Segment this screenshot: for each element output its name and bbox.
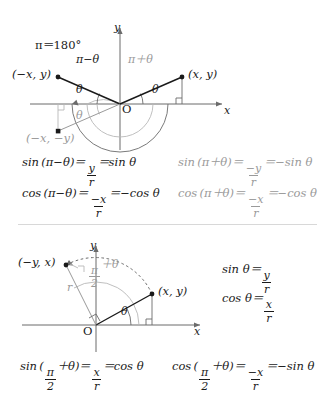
- eq-sin-pi-plus-theta-fraction: −yr: [244, 163, 263, 188]
- eq-cos-half-pi-rhs: ＝−sin θ: [266, 359, 314, 373]
- eq-cos-pi-plus-theta-rhs: ＝−cos θ: [267, 186, 317, 200]
- eq-sin-half-pi-open: sin (: [20, 359, 44, 373]
- fraction-denominator: 2: [199, 379, 210, 392]
- fraction-numerator: −x: [89, 194, 108, 206]
- fraction-denominator: 2: [45, 379, 56, 392]
- origin-label: O: [122, 104, 131, 116]
- ray-to-x-y: [120, 77, 182, 104]
- angle-tail: ＋θ: [101, 258, 119, 271]
- y-axis-label: y: [90, 240, 96, 251]
- note-pi-equals-180: π＝180°: [35, 40, 81, 52]
- fraction-numerator: π: [45, 367, 56, 379]
- eq-cos-half-pi-fraction: −xr: [246, 367, 265, 392]
- x-axis-arrowhead: [216, 101, 222, 106]
- right-angle-mark-right: [176, 98, 182, 104]
- eq-sin-theta-fraction: yr: [262, 270, 272, 295]
- label-radius-r: r: [67, 282, 72, 293]
- eq-cos-half-pi-inner-tail: ＋θ: [211, 359, 229, 373]
- eq-cos-half-pi-open: cos (: [172, 359, 198, 373]
- eq-cos-theta-fraction: xr: [264, 299, 274, 324]
- half-pi-fraction: π2: [89, 265, 100, 289]
- eq-sin-pi-minus-theta-fraction: yr: [86, 163, 96, 188]
- fraction-denominator: r: [92, 379, 101, 392]
- eq-cos-half-pi-inner-fraction: π2: [199, 367, 210, 392]
- y-axis-label: y: [114, 22, 120, 33]
- eq-cos-theta: cos θ＝xr: [222, 293, 275, 324]
- eq-cos-pi-minus-theta: cos (π−θ)＝−xr＝−cos θ: [22, 188, 160, 219]
- fraction-denominator: 2: [89, 276, 100, 289]
- eq-sin-pi-minus-theta: sin (π−θ)＝yr＝sin θ: [22, 157, 136, 188]
- eq-sin-half-pi-close: )＝: [75, 359, 91, 373]
- label-point-x-y: (x, y): [188, 69, 217, 81]
- fraction-numerator: π: [89, 265, 100, 277]
- ray-to-minus-x-y: [58, 77, 120, 104]
- label-point-x-y: (x, y): [158, 286, 187, 298]
- label-point-minus-x-minus-y: (−x, −y): [26, 133, 75, 145]
- label-angle-theta-below: θ: [76, 110, 83, 121]
- fraction-denominator: r: [264, 311, 273, 324]
- eq-cos-theta-lhs: cos θ＝: [222, 291, 263, 305]
- label-point-minus-y-x: (−y, x): [18, 257, 55, 269]
- x-axis-label: x: [194, 326, 200, 337]
- fraction-denominator: r: [249, 175, 258, 188]
- panel-upper: π＝180° y x O (−x, y) (x, y) (−x, −y) π−θ…: [0, 0, 335, 150]
- fraction-numerator: y: [86, 163, 96, 175]
- eq-sin-pi-plus-theta-lhs: sin (π＋θ)＝: [178, 155, 243, 169]
- right-angle-mark-foot: [146, 319, 152, 325]
- eq-sin-half-pi-inner-tail: ＋θ: [57, 359, 75, 373]
- eq-cos-pi-plus-theta: cos (π＋θ)＝−xr＝−cos θ: [178, 188, 317, 219]
- eq-cos-pi-minus-theta-rhs: ＝−cos θ: [109, 186, 159, 200]
- x-axis-label: x: [224, 105, 230, 116]
- fraction-denominator: r: [251, 379, 260, 392]
- fraction-numerator: y: [262, 270, 272, 282]
- eq-cos-pi-minus-theta-lhs: cos (π−θ)＝: [22, 186, 88, 200]
- eq-sin-half-pi-fraction: xr: [91, 367, 101, 392]
- eq-cos-half-pi-plus-theta: cos (π2＋θ)＝−xr＝−sin θ: [172, 361, 314, 392]
- eq-sin-half-pi-rhs: ＝cos θ: [103, 359, 144, 373]
- eq-sin-half-pi-plus-theta: sin (π2＋θ)＝xr＝cos θ: [20, 361, 144, 392]
- fraction-numerator: −y: [244, 163, 263, 175]
- dot-x-y: [150, 292, 155, 297]
- label-point-minus-x-y: (−x, y): [12, 69, 51, 81]
- panel-divider: [18, 224, 317, 225]
- dot-minus-y-x: [64, 263, 69, 268]
- right-angle-mark-upper: [78, 266, 84, 272]
- eq-sin-theta-lhs: sin θ＝: [222, 262, 261, 276]
- ray-to-minus-x-minus-y: [58, 104, 120, 131]
- eq-sin-half-pi-inner-fraction: π2: [45, 367, 56, 392]
- eq-sin-pi-minus-theta-lhs: sin (π−θ)＝: [22, 155, 85, 169]
- fraction-numerator: x: [91, 367, 101, 379]
- label-angle-pi-plus-theta: π＋θ: [128, 54, 153, 65]
- panel-lower: y x O (−y, x) (x, y) r π2＋θ θ: [0, 232, 335, 352]
- eq-cos-pi-plus-theta-fraction: −xr: [246, 194, 265, 219]
- arc-pi-minus-theta-arrowhead: [72, 100, 79, 106]
- fraction-denominator: r: [251, 206, 260, 219]
- fraction-denominator: r: [87, 175, 96, 188]
- eq-sin-pi-plus-theta-rhs: ＝−sin θ: [264, 155, 312, 169]
- eq-sin-pi-plus-theta: sin (π＋θ)＝−yr＝−sin θ: [178, 157, 312, 188]
- right-angle-mark-lower-left: [58, 104, 64, 110]
- fraction-numerator: π: [199, 367, 210, 379]
- dot-x-y: [180, 75, 185, 80]
- eq-cos-half-pi-close: )＝: [229, 359, 245, 373]
- origin-label: O: [83, 326, 92, 338]
- label-angle-theta-left: θ: [76, 84, 83, 95]
- dot-minus-x-y: [56, 75, 61, 80]
- eq-sin-pi-minus-theta-rhs: ＝sin θ: [98, 155, 137, 169]
- fraction-numerator: −x: [246, 367, 265, 379]
- label-angle-pi-minus-theta: π−θ: [76, 54, 99, 65]
- fraction-numerator: x: [264, 299, 274, 311]
- label-angle-theta-right: θ: [152, 84, 159, 95]
- label-angle-half-pi-plus-theta: π2＋θ: [88, 259, 119, 289]
- figure-page: π＝180° y x O (−x, y) (x, y) (−x, −y) π−θ…: [0, 0, 335, 400]
- fraction-denominator: r: [94, 206, 103, 219]
- label-angle-theta: θ: [121, 306, 128, 317]
- tick-upper: [70, 264, 78, 268]
- fraction-numerator: −x: [246, 194, 265, 206]
- eq-cos-pi-minus-theta-fraction: −xr: [89, 194, 108, 219]
- eq-cos-pi-plus-theta-lhs: cos (π＋θ)＝: [178, 186, 245, 200]
